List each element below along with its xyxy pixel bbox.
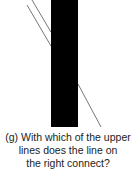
caption-line-2: lines does the line on <box>0 144 136 157</box>
caption-line-3: the right connect? <box>0 157 136 170</box>
poggendorff-figure <box>0 0 136 128</box>
right-line <box>78 84 101 127</box>
caption-line-1: (g) With which of the upper <box>0 131 136 144</box>
upper-line-1 <box>32 0 51 32</box>
figure-caption: (g) With which of the upper lines does t… <box>0 131 136 170</box>
occluding-bar <box>51 0 78 127</box>
